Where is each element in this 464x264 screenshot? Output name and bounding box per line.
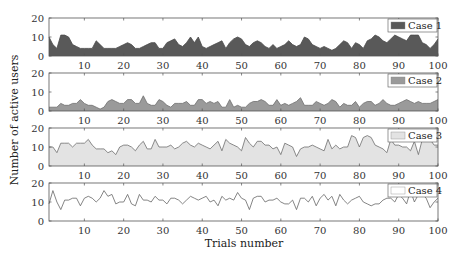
legend-swatch (391, 22, 405, 29)
x-tick-label: 100 (428, 60, 447, 71)
x-tick-label: 60 (274, 115, 287, 126)
panel-3: 10203040506070809010001020Case 3 (31, 123, 447, 182)
x-tick-label: 10 (78, 115, 91, 126)
panels-group: 10203040506070809010001020Case 110203040… (31, 13, 447, 237)
y-tick-label: 20 (31, 13, 44, 24)
x-tick-label: 70 (314, 225, 327, 236)
y-tick-label: 10 (31, 32, 44, 43)
x-tick-label: 90 (392, 170, 405, 181)
y-tick-label: 20 (31, 68, 44, 79)
area-series (49, 35, 438, 56)
x-tick-label: 100 (428, 225, 447, 236)
y-tick-label: 20 (31, 178, 44, 189)
y-tick-label: 10 (31, 87, 44, 98)
x-tick-label: 40 (196, 225, 209, 236)
x-tick-label: 30 (157, 115, 170, 126)
legend-swatch (391, 77, 405, 84)
legend: Case 1 (388, 19, 442, 32)
x-tick-label: 10 (78, 170, 91, 181)
x-tick-label: 50 (235, 60, 248, 71)
x-tick-label: 80 (353, 115, 366, 126)
x-tick-label: 100 (428, 115, 447, 126)
x-tick-label: 60 (274, 60, 287, 71)
x-tick-label: 40 (196, 170, 209, 181)
y-tick-label: 0 (38, 106, 44, 117)
y-tick-label: 0 (38, 216, 44, 227)
area-series (49, 136, 438, 166)
x-tick-label: 10 (78, 225, 91, 236)
legend-label: Case 1 (408, 20, 442, 31)
x-tick-label: 100 (428, 170, 447, 181)
x-tick-label: 50 (235, 170, 248, 181)
legend: Case 4 (388, 184, 442, 197)
y-tick-label: 0 (38, 51, 44, 62)
x-tick-label: 50 (235, 115, 248, 126)
y-axis-title: Number of active users (8, 54, 21, 185)
y-tick-label: 0 (38, 161, 44, 172)
x-tick-label: 70 (314, 60, 327, 71)
x-tick-label: 20 (117, 225, 130, 236)
chart-figure: 10203040506070809010001020Case 110203040… (0, 0, 464, 264)
x-tick-label: 30 (157, 225, 170, 236)
legend-label: Case 2 (408, 75, 442, 86)
x-tick-label: 80 (353, 225, 366, 236)
x-tick-label: 30 (157, 170, 170, 181)
x-tick-label: 90 (392, 115, 405, 126)
line-series (49, 191, 438, 210)
x-tick-label: 20 (117, 60, 130, 71)
plot-frame (49, 183, 438, 221)
x-tick-label: 20 (117, 115, 130, 126)
x-tick-label: 50 (235, 225, 248, 236)
x-tick-label: 60 (274, 225, 287, 236)
y-tick-label: 10 (31, 197, 44, 208)
x-tick-label: 60 (274, 170, 287, 181)
x-tick-label: 80 (353, 170, 366, 181)
legend-label: Case 4 (408, 185, 442, 196)
y-tick-label: 20 (31, 123, 44, 134)
x-tick-label: 10 (78, 60, 91, 71)
x-tick-label: 30 (157, 60, 170, 71)
legend-label: Case 3 (408, 130, 442, 141)
panel-2: 10203040506070809010001020Case 2 (31, 68, 447, 127)
x-tick-label: 20 (117, 170, 130, 181)
legend: Case 2 (388, 74, 442, 87)
x-tick-label: 40 (196, 115, 209, 126)
x-tick-label: 80 (353, 60, 366, 71)
x-tick-label: 70 (314, 170, 327, 181)
legend-swatch (391, 187, 405, 194)
panel-1: 10203040506070809010001020Case 1 (31, 13, 447, 72)
y-tick-label: 10 (31, 142, 44, 153)
x-tick-label: 90 (392, 225, 405, 236)
x-axis-title: Trials number (205, 237, 284, 250)
x-tick-label: 90 (392, 60, 405, 71)
legend-swatch (391, 132, 405, 139)
panel-4: 10203040506070809010001020Case 4 (31, 178, 447, 237)
x-tick-label: 40 (196, 60, 209, 71)
legend: Case 3 (388, 129, 442, 142)
x-tick-label: 70 (314, 115, 327, 126)
